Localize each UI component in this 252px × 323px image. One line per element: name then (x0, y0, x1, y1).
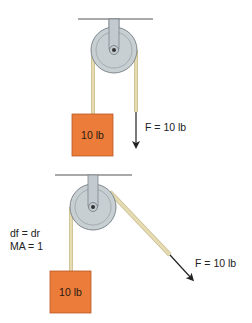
effort-rope-core (110, 192, 170, 255)
fixed-pulley-angled-pull: 10 lb F = 10 lb df = dr MA = 1 (10, 175, 236, 313)
load-label: 10 lb (59, 286, 82, 298)
load-label: 10 lb (81, 129, 104, 141)
pulley-bracket-arm (88, 175, 98, 206)
fixed-pulley-vertical-pull: 10 lb F = 10 lb (72, 19, 186, 156)
mechanical-advantage-equation: MA = 1 (10, 240, 43, 252)
axle-icon (112, 48, 116, 52)
distance-equation: df = dr (10, 227, 41, 239)
axle-icon (91, 205, 95, 209)
force-label: F = 10 lb (145, 121, 186, 133)
pulley-diagram: 10 lb F = 10 lb 10 lb F = 10 lb df = dr … (0, 0, 252, 323)
pulley-bracket-arm (109, 19, 119, 49)
force-arrow (170, 255, 192, 279)
force-label: F = 10 lb (195, 257, 236, 269)
